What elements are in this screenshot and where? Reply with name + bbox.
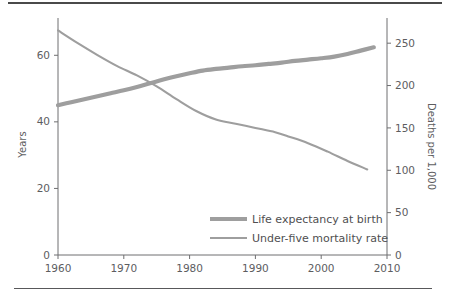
x-axis-tick-label: 1990 xyxy=(242,262,269,274)
x-axis-tick-label: 1960 xyxy=(45,262,72,274)
y-axis-right-tick-label: 200 xyxy=(395,79,415,91)
y-axis-right-tick-label: 250 xyxy=(395,37,415,49)
y-axis-left-title: Years xyxy=(17,131,28,158)
y-axis-right-title: Deaths per 1,000 xyxy=(426,103,437,190)
x-axis-tick-label: 2010 xyxy=(374,262,401,274)
x-axis-tick-label: 1980 xyxy=(176,262,203,274)
y-axis-right-tick-label: 100 xyxy=(395,164,415,176)
y-axis-right-tick-label: 150 xyxy=(395,122,415,134)
dual-axis-line-chart: 0204060050100150200250196019701980199020… xyxy=(0,0,450,302)
series-line-life-expectancy xyxy=(58,47,374,105)
x-axis-tick-label: 1970 xyxy=(110,262,137,274)
y-axis-right-tick-label: 0 xyxy=(395,249,402,261)
x-axis-tick-label: 2000 xyxy=(308,262,335,274)
series-line-under-five-mortality xyxy=(58,30,367,169)
legend-label: Under-five mortality rate xyxy=(252,232,388,245)
y-axis-right-tick-label: 50 xyxy=(395,206,408,218)
y-axis-left-tick-label: 60 xyxy=(37,49,50,61)
legend-label: Life expectancy at birth xyxy=(252,213,383,226)
figure-container: 0204060050100150200250196019701980199020… xyxy=(0,0,450,302)
y-axis-left-tick-label: 0 xyxy=(43,249,50,261)
y-axis-left-tick-label: 20 xyxy=(37,182,50,194)
y-axis-left-tick-label: 40 xyxy=(37,115,50,127)
